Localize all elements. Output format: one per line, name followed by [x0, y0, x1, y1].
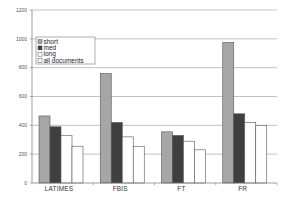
category-label: FBIS [113, 185, 129, 192]
bar-short [162, 132, 173, 183]
bar-all-documents [195, 150, 206, 183]
legend-swatch [38, 52, 42, 56]
y-axis: 020040060080010001200 [16, 7, 32, 186]
y-tick-label: 1000 [16, 36, 27, 42]
y-tick-label: 400 [19, 122, 28, 128]
y-tick-label: 0 [24, 180, 27, 186]
bar-long [184, 141, 195, 183]
category-label: FT [177, 185, 185, 192]
y-tick-label: 800 [19, 64, 28, 70]
bar-med [50, 127, 61, 183]
legend-label: all documents [44, 57, 85, 64]
bar-all-documents [133, 146, 144, 183]
category-label: LATIMES [45, 185, 74, 192]
x-axis: LATIMESFBISFTFR [32, 183, 277, 192]
category-label: FR [238, 185, 247, 192]
bar-med [173, 135, 184, 183]
bar-med [234, 114, 245, 183]
y-tick-label: 600 [19, 93, 28, 99]
bar-long [61, 135, 72, 183]
bar-short [39, 116, 50, 183]
bar-long [245, 122, 256, 183]
legend-swatch [38, 40, 42, 44]
legend-swatch [38, 46, 42, 50]
bar-all-documents [72, 146, 83, 183]
bar-short [223, 42, 234, 183]
y-tick-label: 200 [19, 151, 28, 157]
legend-swatch [38, 59, 42, 63]
legend: shortmedlongall documents [36, 37, 95, 64]
bar-all-documents [256, 125, 267, 183]
y-tick-label: 1200 [16, 7, 27, 13]
bar-short [100, 73, 111, 183]
bar-med [111, 122, 122, 183]
bar-long [122, 137, 133, 183]
bar-chart: 020040060080010001200 LATIMESFBISFTFR sh… [0, 0, 291, 205]
